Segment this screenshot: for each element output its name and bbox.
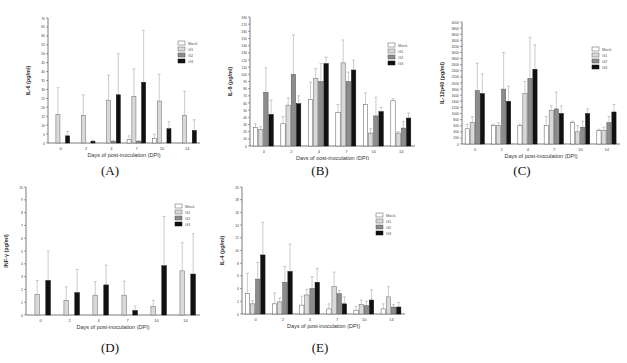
bar-mock-day-14: [597, 130, 601, 144]
bar-g1-day-10: [359, 304, 363, 314]
bar-g3-day-2: [288, 271, 292, 314]
bar-g2-day-2: [291, 74, 295, 146]
legend-label-g2: G2: [386, 225, 392, 230]
bar-g3-day-10: [167, 129, 171, 143]
legend-label-g3: G3: [185, 222, 191, 227]
y-axis-title: IL-4 (pg/ml): [219, 236, 225, 266]
bar-g2-day-4: [528, 78, 532, 144]
bar-g3-day-7: [342, 304, 346, 314]
y-tick-label: 400: [453, 130, 459, 134]
y-tick-label: 10: [41, 124, 45, 128]
bar-g2-day-14: [401, 128, 405, 146]
legend-label-g1: G1: [398, 49, 404, 54]
x-tick-label: 0: [60, 146, 63, 151]
y-axis-title: IL-8 (pg/ml): [227, 67, 233, 97]
x-tick-label: 0: [39, 318, 42, 323]
y-tick-label: 1600: [451, 94, 459, 98]
chart-panel-e: 02468101214161820IL-4 (pg/ml)02471014Day…: [210, 175, 425, 335]
x-tick-label: 4: [309, 317, 312, 322]
bar-g1-day-2: [64, 300, 69, 315]
bar-mock-day-0: [253, 127, 257, 146]
bar-g3-day-0: [269, 114, 273, 146]
x-tick-label: 0: [254, 317, 257, 322]
y-tick-label: 9: [21, 198, 23, 202]
legend-label-g3: G3: [188, 59, 194, 64]
x-tick-label: 0: [474, 147, 477, 152]
bar-g1-day-4: [523, 94, 527, 144]
legend-swatch-mock: [175, 204, 182, 208]
bar-g2-day-14: [607, 123, 611, 144]
chart-panel-c: 0200400600800100012001400160018002000220…: [420, 0, 627, 160]
bar-g3-day-4: [533, 69, 537, 144]
legend-label-g3: G3: [386, 231, 392, 236]
bar-g2-day-4: [310, 289, 314, 314]
y-tick-label: 0: [457, 143, 459, 147]
x-tick-label: 2: [500, 147, 503, 152]
bar-g2-day-0: [475, 91, 479, 144]
bar-mock-day-0: [465, 129, 469, 144]
legend-label-g2: G2: [188, 53, 194, 58]
bar-mock-day-2: [281, 124, 285, 146]
legend-label-g3: G3: [602, 65, 608, 70]
bar-g2-day-7: [337, 294, 341, 314]
y-tick-label: 3400: [451, 39, 459, 43]
y-tick-label: 65: [41, 25, 45, 29]
y-tick-label: 50: [243, 109, 247, 113]
bar-g3-day-4: [116, 95, 120, 143]
y-tick-label: 20: [235, 186, 239, 190]
y-tick-label: 1000: [451, 112, 459, 116]
legend-label-g1: G1: [185, 210, 191, 215]
legend-swatch-mock: [376, 213, 383, 217]
y-tick-label: 10: [19, 186, 23, 190]
y-tick-label: 160: [241, 30, 247, 34]
x-tick-label: 4: [527, 147, 530, 152]
bar-g2-day-4: [111, 141, 115, 143]
legend-swatch-g3: [376, 231, 383, 235]
chart-il6: 0510152025303540455055606570IL-6 (pg/ml)…: [0, 0, 215, 160]
x-tick-label: 2: [68, 318, 71, 323]
x-tick-label: 14: [185, 146, 190, 151]
bar-g1-day-10: [157, 101, 161, 143]
bar-g3-day-2: [296, 104, 300, 146]
legend-swatch-g3: [388, 61, 395, 65]
y-tick-label: 1800: [451, 88, 459, 92]
y-tick-label: 4000: [451, 21, 459, 25]
bar-g1-day-2: [278, 302, 282, 314]
y-tick-label: 100: [241, 73, 247, 77]
y-tick-label: 14: [235, 224, 239, 228]
y-tick-label: 0: [21, 314, 23, 318]
bar-g1-day-10: [576, 132, 580, 144]
y-tick-label: 2000: [451, 82, 459, 86]
chart-infg: 012345678910INF-γ (pg/ml)02471014Days of…: [0, 175, 215, 335]
bar-g3-day-7: [559, 114, 563, 145]
y-tick-label: 3200: [451, 45, 459, 49]
bar-mock-day-4: [308, 99, 312, 146]
bar-g3-day-7: [351, 70, 355, 146]
bar-g3-day-0: [261, 255, 265, 314]
bar-g3-day-0: [480, 94, 484, 144]
y-tick-label: 170: [241, 23, 247, 27]
y-tick-label: 1: [21, 301, 23, 305]
y-tick-label: 6: [237, 274, 239, 278]
panel-label-c: (C): [492, 163, 552, 179]
bar-g2-day-10: [364, 306, 368, 314]
x-tick-label: 10: [160, 146, 165, 151]
y-tick-label: 2: [21, 288, 23, 292]
bar-g2-day-10: [581, 127, 585, 144]
bar-g3-day-10: [379, 112, 383, 146]
y-tick-label: 2: [237, 300, 239, 304]
bar-g3-day-10: [162, 266, 167, 315]
y-tick-label: 3600: [451, 33, 459, 37]
y-tick-label: 2200: [451, 75, 459, 79]
x-tick-label: 4: [318, 149, 321, 154]
y-tick-label: 4: [237, 287, 239, 291]
bar-g3-day-2: [91, 141, 95, 143]
bar-g3-day-4: [104, 285, 109, 315]
bar-g1-day-4: [305, 295, 309, 314]
x-tick-label: 7: [553, 147, 556, 152]
bar-g2-day-4: [319, 82, 323, 147]
bar-mock-day-10: [354, 310, 358, 314]
bar-g3-day-0: [66, 136, 70, 143]
legend-label-g2: G2: [185, 216, 191, 221]
y-tick-label: 4: [21, 262, 23, 266]
